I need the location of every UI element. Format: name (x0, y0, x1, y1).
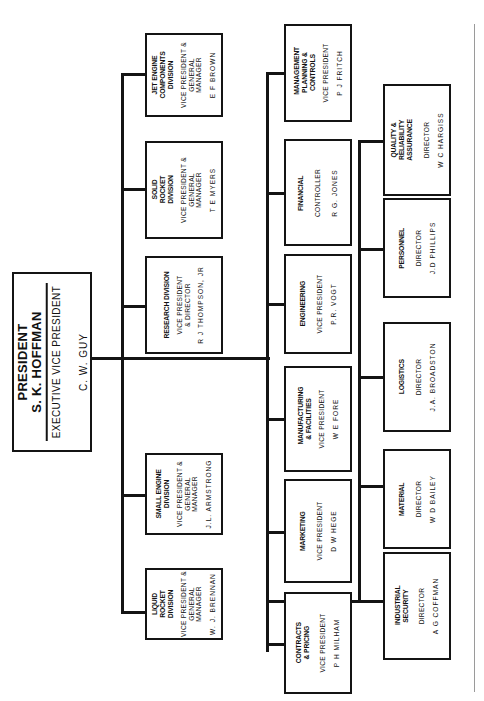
division-title: LIQUID ROCKET DIVISION (151, 579, 175, 628)
staff-role: VICE PRESIDENT (318, 389, 326, 448)
connector-material (358, 485, 384, 488)
connector-logistics (358, 376, 384, 379)
staff-role: VICE PRESIDENT (322, 43, 330, 102)
division-head: J.L. ARMSTRONG (205, 460, 213, 529)
connector-financial (266, 192, 285, 195)
division-role: VICE PRESIDENT & GENERAL MANAGER (180, 571, 203, 637)
staff-title: CONTRACTS & PRICING (295, 622, 311, 665)
division-box-research: RESEARCH DIVISION VICE PRESIDENT & DIREC… (145, 256, 223, 354)
division-head: W. J. BRENNAN (209, 573, 217, 635)
division-head: T E MYERS (209, 168, 217, 212)
division-box-solid-rocket: SOLID ROCKET DIVISION VICE PRESIDENT & G… (145, 141, 223, 239)
connector-solid (121, 188, 146, 191)
connector-small-engine (121, 494, 146, 497)
staff-head: P H MILHAM (333, 619, 341, 667)
connector-staff-spine (266, 72, 269, 652)
staff-head: D W HEGE (329, 510, 337, 551)
staff-role: VICE PRESIDENT (319, 613, 327, 672)
connector-director-spine (358, 140, 361, 603)
director-box-personnel: PERSONNEL DIRECTOR J.D PHILLIPS (383, 198, 451, 298)
connector-jet (121, 73, 146, 76)
director-title: LOGISTICS (398, 359, 406, 394)
division-head: R J THOMPSON, JR (197, 266, 205, 343)
connector-engineering (266, 303, 285, 306)
exec-vp-role: EXECUTIVE VICE PRESIDENT (50, 286, 61, 438)
staff-box-manufacturing: MANUFACTURING & FACILITIES VICE PRESIDEN… (284, 366, 352, 472)
division-role: VICE PRESIDENT & GENERAL MANAGER (180, 42, 203, 108)
exec-vp-name: C. W. GUY (77, 333, 88, 391)
director-head: J.D PHILLIPS (428, 222, 436, 275)
director-role: DIRECTOR (415, 230, 423, 267)
director-box-industrial-security: INDUSTRIAL SECURITY DIRECTOR A G COFFMAN (383, 552, 451, 660)
connector-division-spine (121, 73, 124, 613)
staff-role: VICE PRESIDENT (316, 501, 324, 560)
staff-title: MANUFACTURING & FACILITIES (297, 394, 313, 445)
staff-title: ENGINEERING (299, 281, 307, 327)
connector-mfg (266, 418, 285, 421)
page-border (474, 24, 475, 692)
connector-mgmt (266, 72, 285, 75)
staff-head: P J FRITCH (335, 50, 343, 95)
division-title: SMALL ENGINE DIVISION (155, 469, 171, 518)
staff-box-management-planning: MANAGEMENT PLANNING & CONTROLS VICE PRES… (284, 24, 352, 122)
director-head: J.A. BROADSTON (428, 343, 436, 412)
division-title: SOLID ROCKET DIVISION (151, 167, 175, 214)
staff-box-marketing: MARKETING VICE PRESIDENT D W HEGE (284, 479, 352, 583)
staff-box-engineering: ENGINEERING VICE PRESIDENT P.R. VOGT (284, 254, 352, 354)
connector-president-trunk (92, 357, 270, 360)
staff-role: VICE PRESIDENT (316, 274, 324, 333)
division-head: E F BROWN (209, 52, 217, 98)
connector-quality (358, 140, 384, 143)
director-title: MATERIAL (398, 482, 406, 515)
staff-title: MANAGEMENT PLANNING & CONTROLS (293, 51, 317, 95)
connector-industrial (358, 600, 384, 603)
director-role: DIRECTOR (415, 481, 423, 518)
director-head: W D BAILEY (428, 475, 436, 523)
staff-head: P.R. VOGT (329, 283, 337, 325)
director-head: W C HARGISS (436, 112, 444, 167)
staff-head: W E FORE (331, 399, 339, 440)
division-title: RESEARCH DIVISION (163, 271, 171, 338)
director-role: DIRECTOR (418, 588, 426, 625)
connector-marketing (266, 531, 285, 534)
staff-head: R G. JONES (331, 169, 339, 216)
staff-role: CONTROLLER (314, 168, 322, 216)
staff-title: MARKETING (299, 511, 307, 551)
connector-contracts (266, 643, 285, 646)
division-box-liquid-rocket: LIQUID ROCKET DIVISION VICE PRESIDENT & … (145, 568, 223, 640)
division-role: VICE PRESIDENT & GENERAL MANAGER (180, 157, 203, 223)
director-role: DIRECTOR (423, 122, 431, 159)
president-box: PRESIDENT S. K. HOFFMAN EXECUTIVE VICE P… (12, 272, 92, 452)
division-role: VICE PRESIDENT & GENERAL MANAGER (176, 459, 199, 529)
connector-research (121, 305, 146, 308)
director-box-quality: QUALITY & RELIABILITY ASSURANCE DIRECTOR… (383, 84, 451, 196)
president-title: PRESIDENT (16, 323, 30, 400)
divider (46, 283, 48, 441)
division-title: JET ENGINE COMPONENTS DIVISION (151, 44, 175, 105)
staff-title: FINANCIAL (297, 175, 305, 210)
connector-liquid (121, 611, 146, 614)
division-box-jet-engine: JET ENGINE COMPONENTS DIVISION VICE PRES… (145, 33, 223, 117)
director-head: A G COFFMAN (432, 578, 440, 634)
director-box-logistics: LOGISTICS DIRECTOR J.A. BROADSTON (383, 322, 451, 432)
director-role: DIRECTOR (415, 359, 423, 396)
staff-box-contracts: CONTRACTS & PRICING VICE PRESIDENT P H M… (284, 592, 352, 694)
staff-box-financial: FINANCIAL CONTROLLER R G. JONES (284, 139, 352, 246)
director-title: QUALITY & RELIABILITY ASSURANCE (390, 104, 414, 175)
division-box-small-engine: SMALL ENGINE DIVISION VICE PRESIDENT & G… (145, 453, 223, 535)
president-name: S. K. HOFFMAN (30, 311, 44, 412)
division-role: VICE PRESIDENT & DIRECTOR (176, 275, 191, 335)
director-title: INDUSTRIAL SECURITY (394, 587, 410, 624)
director-title: PERSONNEL (398, 228, 406, 269)
connector-personnel (358, 248, 384, 251)
director-box-material: MATERIAL DIRECTOR W D BAILEY (383, 449, 451, 549)
